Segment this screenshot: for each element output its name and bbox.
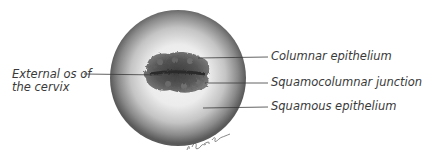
label-squamocolumnar-junction: Squamocolumnar junction — [271, 76, 422, 89]
label-squamous-epithelium: Squamous epithelium — [271, 100, 396, 113]
label-columnar-epithelium: Columnar epithelium — [271, 50, 392, 63]
label-external-os: External os of the cervix — [12, 68, 91, 94]
label-external-os-line2: the cervix — [12, 81, 91, 94]
